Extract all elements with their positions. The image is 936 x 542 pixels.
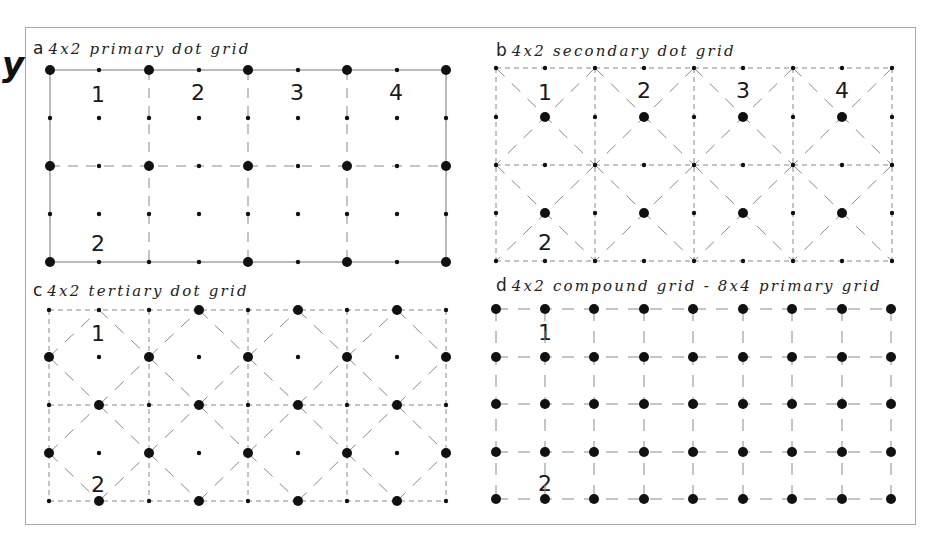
compound-dot [886,304,896,314]
compound-dot [738,447,748,457]
guide-dot [593,163,597,167]
panel-c-diagonal [199,405,248,453]
guide-dot [97,164,101,168]
compound-dot [837,352,847,362]
guide-dot [395,260,399,264]
guide-dot [642,163,646,167]
panel-c-diagonal [49,310,99,357]
guide-dot [147,403,151,407]
panel-c-diagonal [298,405,347,453]
tertiary-dot [293,496,303,506]
guide-dot [296,164,300,168]
secondary-dot [639,208,649,218]
tertiary-dot [342,352,352,362]
compound-dot [837,399,847,409]
tertiary-dot [342,448,352,458]
compound-dot [491,494,501,504]
guide-dot [197,116,201,120]
compound-dot [787,352,797,362]
tertiary-dot [392,496,402,506]
panel-c-diagonal [397,357,446,405]
guide-dot [345,212,349,216]
tertiary-dot [392,400,402,410]
compound-dot [639,447,649,457]
guide-dot [741,66,745,70]
guide-dot [97,451,101,455]
guide-dot [444,308,448,312]
guide-dot [395,212,399,216]
panel-c-diagonal [99,405,149,453]
guide-dot [890,115,894,119]
panel-c-diagonal [347,357,397,405]
dot-grids [0,0,936,542]
primary-dot [342,65,352,75]
guide-dot [97,308,101,312]
guide-dot [791,115,795,119]
compound-dot [837,494,847,504]
compound-dot [738,352,748,362]
guide-dot [395,68,399,72]
guide-dot [395,164,399,168]
compound-dot [589,494,599,504]
compound-dot [886,399,896,409]
compound-dot [886,494,896,504]
tertiary-dot [441,352,451,362]
compound-dot [589,447,599,457]
guide-dot [97,212,101,216]
primary-dot [441,161,451,171]
compound-dot [886,352,896,362]
primary-dot [144,65,154,75]
compound-dot [540,494,550,504]
guide-dot [890,66,894,70]
panel-c-diagonal [298,357,347,405]
panel-c-diagonal [298,310,347,357]
guide-dot [444,212,448,216]
primary-dot [45,161,55,171]
tertiary-dot [144,352,154,362]
guide-dot [890,259,894,263]
guide-dot [246,212,250,216]
panel-c-diagonal [347,405,397,453]
guide-dot [296,355,300,359]
guide-dot [692,163,696,167]
panel-c-diagonal [49,357,99,405]
panel-c-diagonal [347,453,397,501]
secondary-dot [738,112,748,122]
guide-dot [97,68,101,72]
guide-dot [444,403,448,407]
figure-stage: y a4x2 primary dot grid b4x2 secondary d… [0,0,936,542]
guide-dot [494,259,498,263]
compound-dot [837,304,847,314]
guide-dot [97,355,101,359]
guide-dot [494,66,498,70]
primary-dot [342,161,352,171]
primary-dot [342,257,352,267]
tertiary-dot [293,400,303,410]
guide-dot [147,116,151,120]
guide-dot [197,164,201,168]
guide-dot [791,211,795,215]
compound-dot [540,447,550,457]
compound-dot [540,399,550,409]
guide-dot [345,403,349,407]
guide-dot [692,211,696,215]
primary-dot [441,65,451,75]
guide-dot [840,259,844,263]
compound-dot [787,399,797,409]
tertiary-dot [44,352,54,362]
panel-c-diagonal [199,357,248,405]
guide-dot [197,451,201,455]
tertiary-dot [94,400,104,410]
guide-dot [791,66,795,70]
secondary-dot [837,208,847,218]
tertiary-dot [392,305,402,315]
panel-c-diagonal [149,405,199,453]
panel-c-diagonal [347,310,397,357]
guide-dot [47,403,51,407]
tertiary-dot [194,400,204,410]
guide-dot [296,68,300,72]
guide-dot [246,116,250,120]
guide-dot [791,259,795,263]
compound-dot [688,447,698,457]
guide-dot [543,66,547,70]
